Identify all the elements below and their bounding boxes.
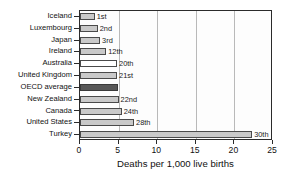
bar xyxy=(80,72,117,79)
category-label: United States xyxy=(26,116,72,128)
x-tick xyxy=(79,140,80,144)
category-label: United Kingdom xyxy=(18,69,72,81)
bar xyxy=(80,84,118,91)
bar xyxy=(80,96,119,103)
x-tick-label: 10 xyxy=(151,145,161,155)
bar-row: 2nd xyxy=(80,23,271,35)
x-tick-label: 0 xyxy=(77,145,82,155)
plot-area: 1st2nd3rd12th20th21st22nd24th28th30th xyxy=(79,10,272,140)
bar-row: 21st xyxy=(80,70,271,82)
rank-label: 2nd xyxy=(100,23,112,35)
bar xyxy=(80,60,117,67)
bar xyxy=(80,25,98,32)
category-label: Australia xyxy=(42,57,72,69)
category-label: Iceland xyxy=(48,10,73,22)
category-label: Japan xyxy=(51,34,72,46)
bar-row xyxy=(80,82,271,94)
bar-row: 12th xyxy=(80,46,271,58)
bar-row: 24th xyxy=(80,106,271,118)
x-tick-label: 15 xyxy=(190,145,200,155)
bar-row: 3rd xyxy=(80,35,271,47)
x-tick xyxy=(118,140,119,144)
category-label: Luxembourg xyxy=(30,22,72,34)
rank-label: 24th xyxy=(124,106,138,118)
x-tick xyxy=(156,140,157,144)
bar-row: 22nd xyxy=(80,94,271,106)
x-axis-title: Deaths per 1,000 live births xyxy=(79,158,272,169)
category-label: Turkey xyxy=(49,128,72,140)
category-label: Canada xyxy=(45,105,72,117)
rank-label: 20th xyxy=(119,58,133,70)
category-label: OECD average xyxy=(21,81,73,93)
infant-mortality-bar-chart: IcelandLuxembourgJapanIrelandAustraliaUn… xyxy=(0,0,289,180)
x-tick xyxy=(272,140,273,144)
rank-label: 12th xyxy=(108,46,122,58)
x-tick xyxy=(233,140,234,144)
category-axis-labels: IcelandLuxembourgJapanIrelandAustraliaUn… xyxy=(0,10,76,140)
category-label: New Zealand xyxy=(27,93,72,105)
bar xyxy=(80,108,122,115)
bar xyxy=(80,48,106,55)
bar xyxy=(80,131,252,138)
bar-row: 1st xyxy=(80,11,271,23)
x-tick-label: 20 xyxy=(229,145,239,155)
bar xyxy=(80,119,134,126)
bar-row: 20th xyxy=(80,58,271,70)
x-tick xyxy=(195,140,196,144)
x-tick-label: 25 xyxy=(267,145,277,155)
rank-label: 22nd xyxy=(121,94,137,106)
rank-label: 3rd xyxy=(102,35,113,47)
rank-label: 28th xyxy=(136,117,150,129)
bar xyxy=(80,37,100,44)
x-tick-label: 5 xyxy=(115,145,120,155)
rank-label: 1st xyxy=(97,11,107,23)
bar-row: 28th xyxy=(80,117,271,129)
category-label: Ireland xyxy=(49,45,72,57)
bar xyxy=(80,13,95,20)
rank-label: 30th xyxy=(254,129,268,141)
rank-label: 21st xyxy=(119,70,133,82)
bar-series: 1st2nd3rd12th20th21st22nd24th28th30th xyxy=(80,11,271,139)
bar-row: 30th xyxy=(80,129,271,141)
